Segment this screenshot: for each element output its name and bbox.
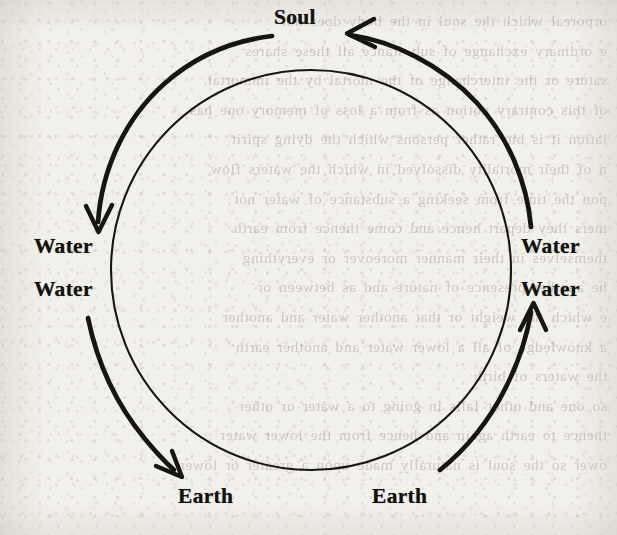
arrow-water-right-to-soul-shaft [350,35,531,227]
arrow-earth-right-to-water-shaft [440,312,531,470]
label-water-lower-right: Water [521,277,580,302]
label-earth-left: Earth [178,484,233,509]
arrow-earth-right-to-water-head [520,303,546,330]
arrow-soul-to-water-left-shaft [98,36,272,222]
label-earth-right: Earth [372,484,427,509]
label-water-upper-right: Water [521,234,580,259]
label-water-lower-left: Water [34,277,93,302]
inner-circle-path [111,70,511,470]
label-soul: Soul [274,5,316,30]
cycle-diagram [0,0,617,535]
arrow-water-right-to-soul-head [347,19,375,47]
inner-circle [111,70,511,470]
label-water-upper-left: Water [34,234,93,259]
cycle-diagram-svg [0,0,617,535]
scanned-page: orporeal which the soul in the body does… [0,0,617,535]
arrow-water-left-to-earth-shaft [88,318,174,470]
